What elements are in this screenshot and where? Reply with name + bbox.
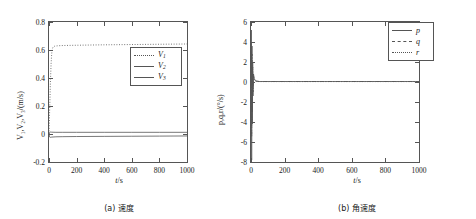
series-r — [251, 52, 419, 122]
x-tick-label: 400 — [99, 166, 110, 175]
legend-line-swatch — [134, 77, 154, 78]
y-tick-label: -8 — [224, 158, 247, 167]
x-tick — [159, 158, 160, 162]
y-tick — [415, 122, 419, 123]
x-tick — [49, 22, 50, 26]
y-tick — [251, 102, 255, 103]
legend-velocity: V1V2V3 — [130, 47, 182, 86]
x-tick-label: 200 — [71, 166, 82, 175]
y-tick-label: 0.8 — [22, 18, 45, 27]
y-tick — [415, 162, 419, 163]
legend-item-q: q — [392, 36, 430, 47]
y-tick-label: -6 — [224, 138, 247, 147]
legend-item-V3: V3 — [134, 72, 178, 83]
y-tick — [49, 78, 53, 79]
legend-item-V2: V2 — [134, 61, 178, 72]
y-tick — [415, 82, 419, 83]
y-tick — [49, 134, 53, 135]
x-tick-label: 800 — [154, 166, 165, 175]
y-tick — [183, 78, 187, 79]
y-tick-label: 4 — [224, 38, 247, 47]
x-tick — [385, 158, 386, 162]
x-tick — [385, 22, 386, 26]
y-tick — [183, 134, 187, 135]
y-tick-label: 0 — [224, 78, 247, 87]
y-tick — [251, 62, 255, 63]
legend-line-swatch — [134, 66, 154, 67]
x-tick — [251, 158, 252, 162]
x-tick — [251, 22, 252, 26]
y-tick-label: -0.2 — [22, 158, 45, 167]
legend-item-r: r — [392, 47, 430, 58]
x-tick — [159, 22, 160, 26]
x-tick — [104, 22, 105, 26]
caption-b: (b) 角速度 — [238, 202, 476, 213]
x-tick-label: 600 — [346, 166, 357, 175]
x-tick — [419, 158, 420, 162]
legend-item-label: V1 — [158, 51, 166, 60]
y-tick — [251, 162, 255, 163]
legend-item-label: q — [416, 38, 420, 46]
legend-item-label: p — [416, 27, 420, 35]
y-tick-label: 0 — [22, 130, 45, 139]
x-tick — [187, 22, 188, 26]
x-tick — [77, 22, 78, 26]
x-tick-label: 0 — [47, 166, 51, 175]
x-tick — [132, 22, 133, 26]
y-tick — [251, 122, 255, 123]
y-tick — [415, 142, 419, 143]
x-axis-title-b: t/s — [238, 176, 476, 185]
y-tick — [49, 50, 53, 51]
x-tick — [352, 158, 353, 162]
legend-item-V1: V1 — [134, 50, 178, 61]
y-tick — [415, 62, 419, 63]
y-tick-label: 6 — [224, 18, 247, 27]
x-tick-label: 400 — [313, 166, 324, 175]
legend-angular-velocity: pqr — [388, 22, 434, 61]
y-tick-label: 0.2 — [22, 102, 45, 111]
x-tick-label: 800 — [380, 166, 391, 175]
x-tick-label: 1000 — [412, 166, 427, 175]
x-tick-label: 0 — [249, 166, 253, 175]
x-tick — [187, 158, 188, 162]
y-tick — [183, 106, 187, 107]
y-tick-label: 0.6 — [22, 46, 45, 55]
caption-a: (a) 速度 — [0, 202, 238, 213]
x-tick — [104, 158, 105, 162]
x-tick — [285, 22, 286, 26]
x-tick — [77, 158, 78, 162]
x-tick — [318, 22, 319, 26]
x-tick — [49, 158, 50, 162]
y-tick — [49, 106, 53, 107]
x-tick — [132, 158, 133, 162]
legend-item-label: V3 — [158, 73, 166, 82]
y-tick-label: 2 — [224, 58, 247, 67]
legend-line-swatch — [392, 52, 412, 53]
x-tick — [352, 22, 353, 26]
y-tick — [49, 162, 53, 163]
x-tick — [285, 158, 286, 162]
velocity-series-layer — [49, 22, 189, 164]
x-tick-label: 600 — [126, 166, 137, 175]
legend-line-swatch — [392, 30, 412, 31]
y-tick-label: -4 — [224, 118, 247, 127]
x-tick-label: 1000 — [180, 166, 195, 175]
panel-angular-velocity: p,q,r/(°/s) -8-6-4-202460200400600800100… — [238, 0, 476, 219]
panel-velocity: V₁,V₂,V₃/(m/s) -0.200.20.40.60.802004006… — [0, 0, 238, 219]
y-tick — [251, 142, 255, 143]
legend-item-label: V2 — [158, 62, 166, 71]
x-tick — [318, 158, 319, 162]
y-tick — [183, 162, 187, 163]
y-tick-label: -2 — [224, 98, 247, 107]
x-tick-label: 200 — [279, 166, 290, 175]
legend-item-p: p — [392, 25, 430, 36]
series-V3 — [49, 134, 187, 137]
y-tick — [251, 82, 255, 83]
figure-container: V₁,V₂,V₃/(m/s) -0.200.20.40.60.802004006… — [0, 0, 476, 219]
x-axis-title-a: t/s — [0, 176, 238, 185]
y-tick — [415, 102, 419, 103]
y-tick — [183, 50, 187, 51]
series-V2 — [49, 132, 187, 134]
y-tick-label: 0.4 — [22, 74, 45, 83]
plot-area-velocity — [48, 21, 188, 163]
